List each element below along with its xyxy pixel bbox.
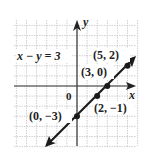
point-label-5-2: (5, 2) (93, 48, 119, 62)
grid (14, 20, 138, 147)
equation-label: x − y = 3 (16, 49, 60, 63)
data-point (94, 93, 100, 99)
point-label-2-neg1: (2, −1) (94, 101, 127, 115)
y-axis-label: y (81, 15, 89, 29)
coordinate-graph: y x 0 x − y = 3 (5, 2) (3, 0) (2, −1) (0… (0, 0, 147, 161)
point-label-3-0: (3, 0) (81, 65, 107, 79)
data-point (125, 63, 131, 69)
point-label-0-neg3: (0, −3) (29, 109, 62, 123)
data-point (74, 113, 80, 119)
x-axis-label: x (128, 88, 135, 102)
origin-label: 0 (66, 90, 72, 102)
data-point (104, 83, 110, 89)
